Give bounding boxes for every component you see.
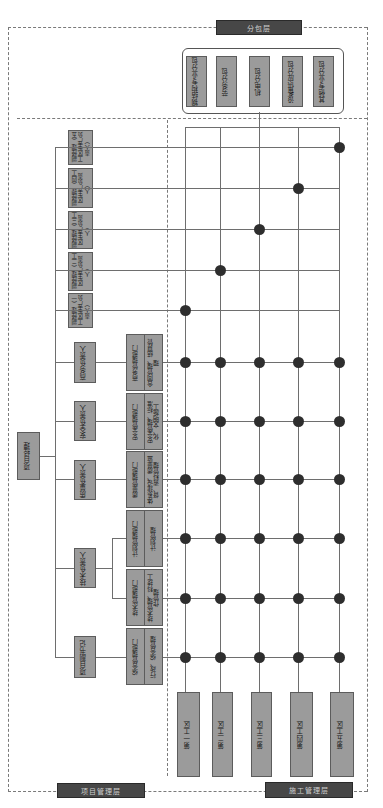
deputy-manager-zone-3: 副经理（三工区生产负责人）: [68, 211, 93, 249]
dept-safety: 安全管理部门 安全管理、标准化、文明施工: [126, 393, 163, 450]
dept-zone-dot: [334, 593, 345, 604]
leader-quality-link: [55, 479, 74, 480]
dept-zone-dot: [215, 533, 226, 544]
party-to-dept: [96, 657, 127, 658]
grid-top: [185, 127, 339, 128]
dept-zone-dot: [215, 593, 226, 604]
dept-business: 商务管理部门 合同管理、结算管理: [126, 334, 163, 391]
deputy-row-3: [55, 229, 339, 230]
project-manager-box: 项目经理: [17, 432, 40, 480]
leader-party-deputy: 项目副书记: [74, 636, 96, 678]
subcontract-layer-text: 分包层: [247, 23, 271, 33]
dept-zone-dot: [293, 416, 304, 427]
dept-zone-dot: [180, 652, 191, 663]
dept-zone-dot: [254, 357, 265, 368]
zone-line-5: [339, 127, 340, 692]
deputy-dot-1: [180, 305, 191, 316]
project-management-layer-label: 项目管理层: [57, 783, 145, 798]
dept-zone-dot: [293, 357, 304, 368]
leader-party-link: [55, 657, 74, 658]
dept-zone-dot: [334, 652, 345, 663]
dept-zone-dot: [254, 533, 265, 544]
pm-connector: [40, 456, 55, 457]
dept-zone-dot: [254, 593, 265, 604]
zone-line-2: [220, 127, 221, 692]
technical-to-plan: [112, 538, 127, 539]
leader-safety: 安全负责人: [74, 401, 96, 441]
dept-zone-dot: [334, 533, 345, 544]
deputy-dot-3: [254, 224, 265, 235]
dept-zone-dot: [180, 357, 191, 368]
leader-safety-link: [55, 421, 74, 422]
dept-zone-dot: [215, 357, 226, 368]
dept-zone-dot: [180, 416, 191, 427]
dept-zone-dot: [215, 416, 226, 427]
subcontractor-steel: 钢结构专业分包: [186, 56, 207, 107]
dept-zone-dot: [180, 474, 191, 485]
outer-frame-left: [8, 27, 9, 792]
management-trunk: [55, 147, 56, 657]
dept-zone-dot: [215, 652, 226, 663]
dept-planning: 计划管理部门 计划管理: [126, 510, 163, 567]
work-zone-4: 第四工区: [290, 692, 313, 777]
work-zone-3: 第三工区: [251, 692, 272, 777]
outer-frame-top: [8, 27, 367, 28]
business-to-dept: [96, 362, 127, 363]
leader-technical-link: [55, 568, 74, 569]
deputy-manager-zone-2: 副经理（二工区生产负责人）: [68, 252, 93, 291]
dept-general: 综合管理部门 行政、综合管理: [126, 628, 163, 685]
dept-zone-dot: [293, 593, 304, 604]
dept-zone-dot: [293, 652, 304, 663]
dept-technical: 技术管理部门 技术管理、科技工作管理: [126, 569, 163, 626]
work-zone-2: 第二工区: [212, 692, 233, 777]
dept-zone-dot: [254, 652, 265, 663]
subcontract-connector: [259, 112, 260, 128]
work-zone-5: 第五工区: [330, 692, 354, 777]
subcontractor-labor: 劳务分包: [216, 56, 237, 107]
zone-line-3: [259, 127, 260, 692]
dept-zone-dot: [254, 474, 265, 485]
dept-zone-dot: [334, 357, 345, 368]
subcontractor-other: 其他专业分包: [313, 56, 334, 107]
deputy-dot-5: [334, 142, 345, 153]
subcontractor-mep: 机电分包: [249, 56, 270, 107]
construction-management-layer-text: 施工管理层: [289, 785, 329, 795]
dept-zone-dot: [293, 533, 304, 544]
work-zone-1: 第一工区: [177, 692, 200, 777]
technical-branch-vert: [112, 538, 113, 598]
project-management-layer-text: 项目管理层: [81, 786, 121, 796]
leader-business-link: [55, 362, 74, 363]
dept-zone-dot: [254, 416, 265, 427]
technical-branch: [96, 568, 112, 569]
zone-line-1: [185, 127, 186, 692]
leader-quality: 质量负责人: [74, 460, 96, 500]
dept-zone-dot: [180, 533, 191, 544]
construction-management-layer-label: 施工管理层: [265, 782, 353, 798]
deputy-row-5: [55, 147, 339, 148]
dept-zone-dot: [334, 474, 345, 485]
technical-to-tech: [112, 598, 127, 599]
safety-to-dept: [96, 421, 127, 422]
dept-zone-dot: [293, 474, 304, 485]
dept-zone-dot: [180, 593, 191, 604]
dept-quality: 质量管理部门 体系建设、质量监督、资料管理: [126, 451, 163, 508]
outer-frame-right: [367, 27, 368, 792]
dept-zone-dot: [334, 416, 345, 427]
deputy-row-1: [55, 310, 339, 311]
subcontract-layer-label: 分包层: [216, 20, 302, 35]
deputy-row-2: [55, 270, 339, 271]
zone-line-4: [298, 127, 299, 692]
management-separator: [167, 120, 168, 776]
deputy-dot-4: [293, 183, 304, 194]
subcontract-separator: [17, 118, 367, 119]
leader-technical: 技术负责人: [74, 548, 96, 588]
quality-to-dept: [96, 479, 127, 480]
leader-business: 商务负责人: [74, 342, 96, 383]
subcontractor-equipment: 设备供应分包: [282, 56, 303, 107]
deputy-dot-2: [215, 265, 226, 276]
dept-zone-dot: [215, 474, 226, 485]
